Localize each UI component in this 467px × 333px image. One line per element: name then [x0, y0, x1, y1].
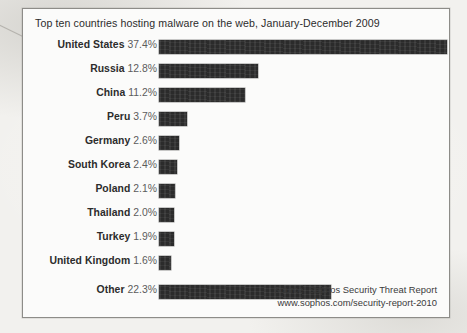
country-name: Other [97, 284, 125, 295]
bar-row: South Korea2.4% [23, 156, 449, 180]
country-name: United States [57, 39, 124, 50]
bar-track [159, 256, 445, 270]
bar-row: China11.2% [23, 84, 449, 108]
bar-row-label: South Korea2.4% [68, 159, 157, 170]
percentage-value: 1.9% [133, 231, 157, 242]
bar [159, 136, 179, 150]
bar-track [159, 232, 445, 246]
bar-row-label: China11.2% [96, 87, 157, 98]
bar-row: Turkey1.9% [23, 228, 449, 252]
bar-track [159, 64, 445, 78]
chart-title: Top ten countries hosting malware on the… [35, 17, 380, 29]
source-url-line: www.sophos.com/security-report-2010 [274, 297, 437, 310]
bar-row-label: Other22.3% [97, 284, 157, 295]
bar-row-label: Russia12.8% [90, 63, 157, 74]
bar [159, 160, 177, 174]
country-name: China [96, 87, 125, 98]
country-name: Russia [90, 63, 124, 74]
bar-track [159, 184, 445, 198]
country-name: Germany [85, 135, 130, 146]
country-name: South Korea [68, 159, 130, 170]
bar [159, 88, 245, 102]
percentage-value: 2.4% [133, 159, 157, 170]
bar-row: Poland2.1% [23, 180, 449, 204]
bar [159, 64, 258, 78]
percentage-value: 1.6% [133, 255, 157, 266]
percentage-value: 37.4% [128, 39, 157, 50]
bar-track [159, 160, 445, 174]
bar-row: Peru3.7% [23, 108, 449, 132]
bar-row-label: Poland2.1% [95, 183, 157, 194]
source-report-line: Source: Sophos Security Threat Report [274, 284, 437, 297]
bar-row: Russia12.8% [23, 60, 449, 84]
bar [159, 112, 187, 126]
source-attribution: Source: Sophos Security Threat Report ww… [274, 284, 437, 309]
bar [159, 40, 447, 54]
percentage-value: 22.3% [128, 284, 157, 295]
bar [159, 232, 174, 246]
bar-row-label: United States37.4% [57, 39, 157, 50]
bar-row-label: Thailand2.0% [87, 207, 157, 218]
percentage-value: 3.7% [133, 111, 157, 122]
bar-track [159, 40, 445, 54]
country-name: Peru [107, 111, 130, 122]
bar-track [159, 88, 445, 102]
bar-row-label: Germany2.6% [85, 135, 157, 146]
bar [159, 256, 171, 270]
bar-row-label: Peru3.7% [107, 111, 157, 122]
country-name: Poland [95, 183, 130, 194]
bar-row: Thailand2.0% [23, 204, 449, 228]
bar-row-label: Turkey1.9% [97, 231, 157, 242]
country-name: Thailand [87, 207, 130, 218]
percentage-value: 2.0% [133, 207, 157, 218]
percentage-value: 12.8% [128, 63, 157, 74]
percentage-value: 2.6% [133, 135, 157, 146]
bar-track [159, 208, 445, 222]
bar-track [159, 136, 445, 150]
bar-row: Germany2.6% [23, 132, 449, 156]
percentage-value: 2.1% [133, 183, 157, 194]
bar-chart-rows: United States37.4%Russia12.8%China11.2%P… [23, 36, 449, 305]
bar-row: United Kingdom1.6% [23, 252, 449, 276]
chart-frame: Top ten countries hosting malware on the… [22, 8, 450, 318]
country-name: Turkey [97, 231, 131, 242]
bar [159, 184, 175, 198]
bar [159, 208, 174, 222]
bar-row-label: United Kingdom1.6% [49, 255, 157, 266]
bar-row: United States37.4% [23, 36, 449, 60]
percentage-value: 11.2% [128, 87, 157, 98]
bar-track [159, 112, 445, 126]
country-name: United Kingdom [49, 255, 130, 266]
